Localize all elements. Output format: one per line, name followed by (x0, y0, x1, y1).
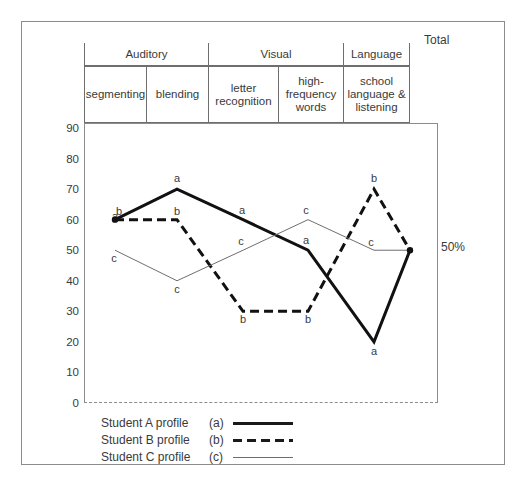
legend-line-icon (233, 457, 293, 458)
category-header-table: Auditory Visual Language segmenting blen… (84, 43, 410, 123)
legend-item-label: Student A profile (101, 416, 209, 430)
legend-item-code: (b) (209, 433, 233, 447)
header-group-auditory: Auditory (84, 43, 208, 66)
y-axis-tick: 80 (66, 153, 79, 165)
header-col-letter-recognition: letter recognition (208, 66, 278, 123)
y-axis-tick: 50 (66, 244, 79, 256)
header-group-row: Auditory Visual Language (84, 43, 410, 66)
header-col-segmenting: segmenting (84, 66, 146, 123)
legend-line-icon (233, 422, 293, 425)
y-axis-tick: 30 (66, 305, 79, 317)
legend-item: Student A profile(a) (101, 414, 295, 431)
header-subject-row: segmenting blending letter recognition h… (84, 66, 410, 123)
legend-item-code: (c) (209, 450, 233, 464)
legend-item-label: Student C profile (101, 450, 209, 464)
legend-item-code: (a) (209, 416, 233, 430)
header-group-language: Language (343, 43, 410, 66)
legend-item: Student C profile(c) (101, 448, 295, 465)
header-col-high-frequency-words: high-frequency words (278, 66, 343, 123)
y-axis-tick: 60 (66, 214, 79, 226)
y-axis-tick: 10 (66, 366, 79, 378)
legend-line-swatch (233, 417, 295, 429)
y-axis-tick: 70 (66, 183, 79, 195)
header-col-blending: blending (146, 66, 208, 123)
legend: Student A profile(a)Student B profile(b)… (101, 414, 295, 465)
legend-item: Student B profile(b) (101, 431, 295, 448)
header-group-visual: Visual (208, 43, 343, 66)
legend-item-label: Student B profile (101, 433, 209, 447)
y-axis: 0102030405060708090 (55, 123, 79, 403)
y-axis-tick: 0 (73, 397, 79, 409)
chart-page: Auditory Visual Language segmenting blen… (0, 0, 527, 487)
total-value-label: 50% (441, 240, 465, 254)
legend-line-swatch (233, 434, 295, 446)
header-col-school-language-listening: school language & listening (343, 66, 410, 123)
y-axis-tick: 90 (66, 122, 79, 134)
legend-line-icon (233, 439, 293, 442)
total-column-header: Total (424, 33, 449, 47)
plot-area (84, 123, 438, 403)
legend-line-swatch (233, 451, 295, 463)
y-axis-tick: 40 (66, 275, 79, 287)
y-axis-tick: 20 (66, 336, 79, 348)
